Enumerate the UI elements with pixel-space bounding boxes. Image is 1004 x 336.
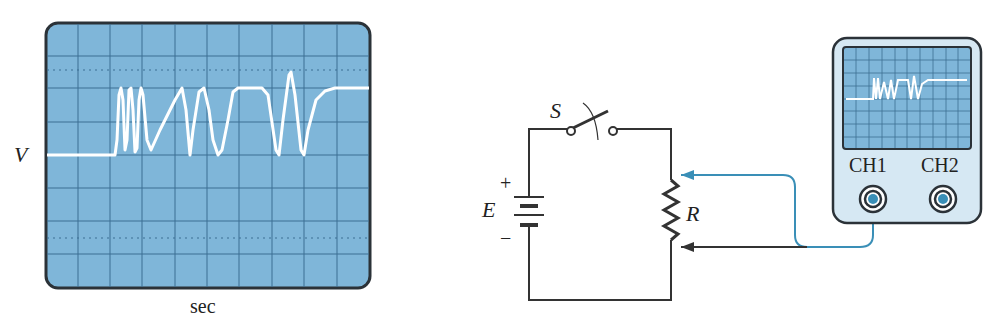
channel-2-label: CH2 bbox=[921, 154, 959, 176]
voltage-axis-label: V bbox=[14, 142, 30, 167]
battery-label: E bbox=[481, 197, 496, 222]
resistor-label: R bbox=[685, 201, 700, 226]
ground-arrow-icon bbox=[681, 242, 694, 252]
small-oscilloscope: CH1 CH2 bbox=[833, 38, 981, 223]
battery-plus-sign: + bbox=[500, 172, 511, 194]
channel-2-connector[interactable] bbox=[930, 186, 956, 212]
figure-canvas: V sec S + E − R bbox=[0, 0, 1004, 336]
probe-arrow-icon bbox=[681, 170, 694, 180]
channel-1-label: CH1 bbox=[849, 154, 887, 176]
channel-1-connector[interactable] bbox=[860, 186, 886, 212]
time-axis-label: sec bbox=[190, 295, 216, 317]
switch-label: S bbox=[550, 98, 561, 123]
switch-terminal-right bbox=[609, 127, 617, 135]
large-oscilloscope-display: V sec bbox=[14, 23, 370, 317]
battery-minus-sign: − bbox=[500, 227, 511, 249]
switch-blade bbox=[573, 111, 608, 128]
series-circuit bbox=[514, 103, 678, 300]
